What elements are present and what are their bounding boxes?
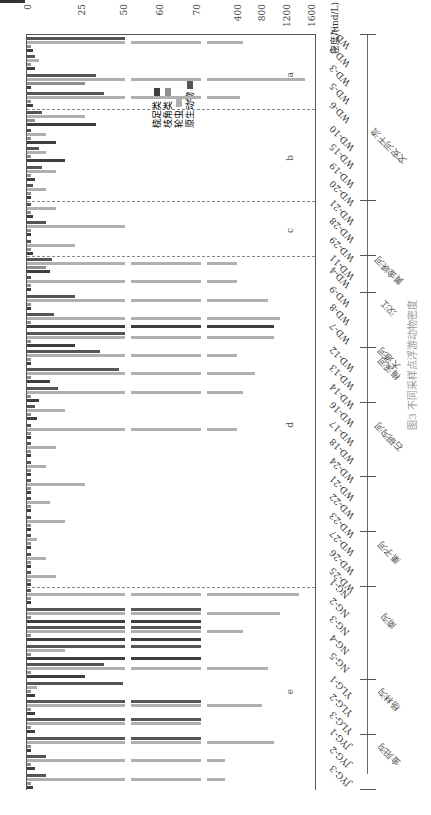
figure-caption: 图3 不同采样点浮游动物密度 — [404, 300, 419, 430]
bar-枝角类 — [27, 119, 35, 122]
bar-轮虫 — [27, 59, 39, 62]
bar-桡足类 — [27, 528, 31, 531]
section-divider — [27, 587, 315, 588]
y-tick-label: 70 — [192, 4, 202, 15]
y-tick-label: 1200 — [282, 4, 292, 27]
bar-桡足类 — [27, 196, 31, 199]
bar-桡足类 — [27, 362, 31, 365]
bar-桡足类 — [27, 694, 35, 697]
group-label: 石硐沟河 — [371, 420, 406, 455]
bar-原生动物 — [27, 37, 127, 40]
y-tick-label: 800 — [257, 4, 267, 21]
bar-枝角类 — [27, 211, 31, 214]
bar-枝角类 — [27, 561, 31, 564]
bar-轮虫 — [27, 593, 299, 596]
bar-桡足类 — [27, 473, 31, 476]
y-tick-label: 1600 — [307, 4, 317, 27]
bar-桡足类 — [27, 638, 202, 641]
bar-枝角类 — [27, 321, 31, 324]
bar-原生动物 — [27, 184, 33, 187]
bar-原生动物 — [27, 387, 58, 390]
bar-轮虫 — [27, 207, 56, 210]
legend-label: 桡足类 — [150, 101, 163, 128]
bar-桡足类 — [27, 288, 31, 291]
bar-原生动物 — [27, 645, 202, 648]
bar-原生动物 — [27, 516, 31, 519]
bar-轮虫 — [27, 667, 268, 670]
bar-原生动物 — [27, 55, 35, 58]
bar-枝角类 — [27, 579, 31, 582]
bar-桡足类 — [27, 657, 202, 660]
bar-桡足类 — [27, 712, 35, 715]
group-boundary-tick — [360, 734, 376, 735]
bar-枝角类 — [27, 505, 31, 508]
bar-枝角类 — [27, 284, 31, 287]
bar-桡足类 — [27, 104, 33, 107]
bar-轮虫 — [27, 465, 46, 468]
bar-枝角类 — [27, 487, 31, 490]
bar-桡足类 — [27, 786, 33, 789]
group-label: 栗子河 — [374, 538, 402, 566]
bar-枝角类 — [27, 616, 31, 619]
bar-枝角类 — [27, 45, 31, 48]
group-label: 文安河干流 — [368, 126, 409, 167]
bar-轮虫 — [27, 630, 243, 633]
y-tick-label: 25 — [77, 4, 87, 15]
bar-桡足类 — [27, 325, 274, 328]
bar-桡足类 — [27, 436, 31, 439]
bar-枝角类 — [27, 266, 46, 269]
bar-桡足类 — [27, 509, 31, 512]
bar-枝角类 — [27, 634, 31, 637]
bar-原生动物 — [27, 147, 39, 150]
bar-轮虫 — [27, 483, 85, 486]
bar-枝角类 — [27, 708, 31, 711]
bar-枝角类 — [27, 358, 31, 361]
bar-轮虫 — [27, 391, 243, 394]
bar-枝角类 — [27, 340, 31, 343]
bar-枝角类 — [27, 100, 31, 103]
bar-原生动物 — [27, 663, 104, 666]
rotated-chart: 图3 不同采样点浮游动物密度 原生动物轮虫枝角类桡足类 abcde 025506… — [0, 0, 431, 815]
bar-轮虫 — [27, 96, 240, 99]
legend-item: 原生动物 — [184, 79, 195, 128]
bar-轮虫 — [27, 557, 46, 560]
section-letter: e — [285, 689, 295, 694]
bar-桡足类 — [27, 159, 65, 162]
bar-原生动物 — [27, 332, 127, 335]
x-tick-label: NG-5 — [327, 651, 351, 675]
bar-原生动物 — [27, 461, 31, 464]
section-divider — [27, 256, 315, 257]
bar-桡足类 — [27, 233, 31, 236]
bar-枝角类 — [27, 690, 31, 693]
bar-枝角类 — [27, 376, 31, 379]
bar-轮虫 — [27, 41, 243, 44]
bar-原生动物 — [27, 608, 202, 611]
bar-轮虫 — [27, 225, 127, 228]
bar-原生动物 — [27, 405, 35, 408]
group-label: 杨林沟 — [374, 685, 402, 713]
bar-轮虫 — [27, 151, 46, 154]
bar-桡足类 — [27, 749, 31, 752]
bar-枝角类 — [27, 192, 31, 195]
group-boundary-tick — [360, 347, 376, 348]
bar-枝角类 — [27, 726, 31, 729]
bar-原生动物 — [27, 129, 31, 132]
bar-原生动物 — [27, 295, 75, 298]
bar-桡足类 — [27, 767, 35, 770]
bar-桡足类 — [27, 601, 31, 604]
bar-枝角类 — [27, 524, 31, 527]
bar-原生动物 — [27, 718, 202, 721]
bar-原生动物 — [27, 221, 46, 224]
y-tick-label: 60 — [155, 4, 165, 15]
bar-桡足类 — [27, 399, 39, 402]
bar-桡足类 — [27, 491, 31, 494]
bar-原生动物 — [27, 92, 104, 95]
bar-原生动物 — [27, 74, 96, 77]
bar-原生动物 — [27, 166, 42, 169]
section-letter: a — [285, 72, 295, 77]
group-boundary-tick — [360, 586, 376, 587]
bar-轮虫 — [27, 446, 56, 449]
group-boundary-tick — [360, 200, 376, 201]
bar-原生动物 — [27, 479, 31, 482]
bar-枝角类 — [27, 469, 31, 472]
